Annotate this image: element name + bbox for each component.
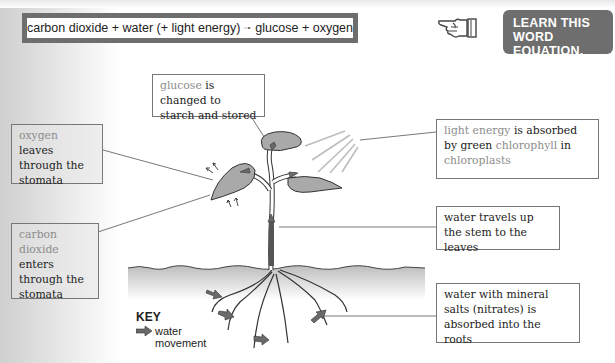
right-leaf xyxy=(288,177,342,193)
leader-light xyxy=(360,132,436,140)
glucose-highlight: glucose xyxy=(160,79,202,92)
stem xyxy=(243,145,296,270)
leader-oxygen xyxy=(103,150,213,180)
leader-carbon-dioxide xyxy=(98,195,210,232)
soil xyxy=(128,266,425,300)
oxygen-highlight: oxygen xyxy=(19,129,58,142)
key-label-line-2: movement xyxy=(155,337,206,349)
key-label-line-1: water xyxy=(155,325,206,337)
label-oxygen: oxygen leaves through the stomata xyxy=(11,124,103,184)
label-water-stem: water travels up the stem to the leaves xyxy=(436,206,560,250)
label-carbon-dioxide: carbon dioxide enters through the stomat… xyxy=(11,223,99,299)
water-movement-arrow-icon xyxy=(136,326,152,336)
key-title: KEY xyxy=(136,311,206,323)
legend-key: KEY water movement xyxy=(136,311,206,349)
carbon-dioxide-highlight: carbon dioxide xyxy=(19,228,59,256)
label-light-energy: light energy is absorbed by green chloro… xyxy=(436,119,599,179)
light-rays xyxy=(305,131,358,173)
label-roots: water with mineral salts (nitrates) is a… xyxy=(436,283,580,343)
leaves xyxy=(211,132,342,200)
label-glucose: glucose is changed to starch and stored xyxy=(152,74,265,117)
top-leaf xyxy=(261,132,301,151)
